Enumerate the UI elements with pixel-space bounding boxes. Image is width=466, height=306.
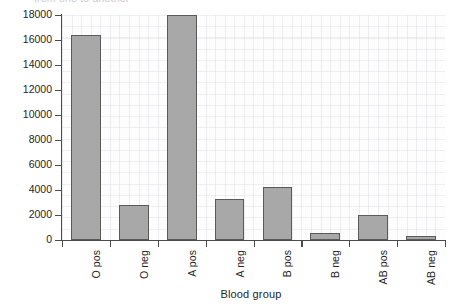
- x-tick-mark: [254, 241, 255, 247]
- x-tick-mark: [301, 241, 302, 247]
- x-tick-label-o-neg: O neg: [138, 250, 150, 279]
- y-tick-label: 18000: [0, 8, 52, 20]
- bar-b-neg: [310, 233, 340, 241]
- bar-a-pos: [167, 15, 197, 240]
- bar-b-pos: [263, 187, 293, 240]
- y-tick-mark: [55, 240, 62, 241]
- y-tick-mark: [55, 65, 62, 66]
- y-tick-label: 6000: [0, 158, 52, 170]
- y-axis-line: [61, 14, 62, 241]
- x-tick-label-ab-neg: AB neg: [425, 250, 437, 285]
- bar-o-neg: [119, 205, 149, 240]
- y-tick-label: 2000: [0, 208, 52, 220]
- bar-ab-pos: [358, 215, 388, 240]
- y-tick-mark: [55, 115, 62, 116]
- x-tick-label-a-pos: A pos: [186, 250, 198, 277]
- x-tick-mark: [62, 241, 63, 247]
- y-tick-mark: [55, 140, 62, 141]
- y-tick-label: 8000: [0, 133, 52, 145]
- bar-o-pos: [71, 35, 101, 240]
- x-tick-mark: [445, 241, 446, 247]
- y-tick-label: 16000: [0, 33, 52, 45]
- y-tick-mark: [55, 90, 62, 91]
- x-tick-mark: [110, 241, 111, 247]
- x-tick-label-ab-pos: AB pos: [377, 250, 389, 284]
- y-tick-label: 12000: [0, 83, 52, 95]
- x-tick-mark: [397, 241, 398, 247]
- x-tick-label-a-neg: A neg: [234, 250, 246, 277]
- x-tick-mark: [349, 241, 350, 247]
- chart-screenshot: from one to another 02000400060008000100…: [0, 0, 466, 306]
- y-tick-mark: [55, 190, 62, 191]
- y-tick-mark: [55, 165, 62, 166]
- y-tick-mark: [55, 215, 62, 216]
- x-tick-label-b-neg: B neg: [329, 250, 341, 278]
- bar-a-neg: [215, 199, 245, 240]
- top-caption-text: from one to another: [34, 0, 234, 4]
- x-tick-mark: [206, 241, 207, 247]
- y-tick-mark: [55, 15, 62, 16]
- x-axis-title: Blood group: [0, 288, 466, 300]
- x-tick-label-o-pos: O pos: [90, 250, 102, 279]
- y-tick-label: 0: [0, 233, 52, 245]
- y-tick-label: 14000: [0, 58, 52, 70]
- x-tick-label-b-pos: B pos: [281, 250, 293, 277]
- x-tick-mark: [158, 241, 159, 247]
- plot-area: [62, 15, 445, 240]
- y-tick-label: 10000: [0, 108, 52, 120]
- y-tick-label: 4000: [0, 183, 52, 195]
- y-tick-mark: [55, 40, 62, 41]
